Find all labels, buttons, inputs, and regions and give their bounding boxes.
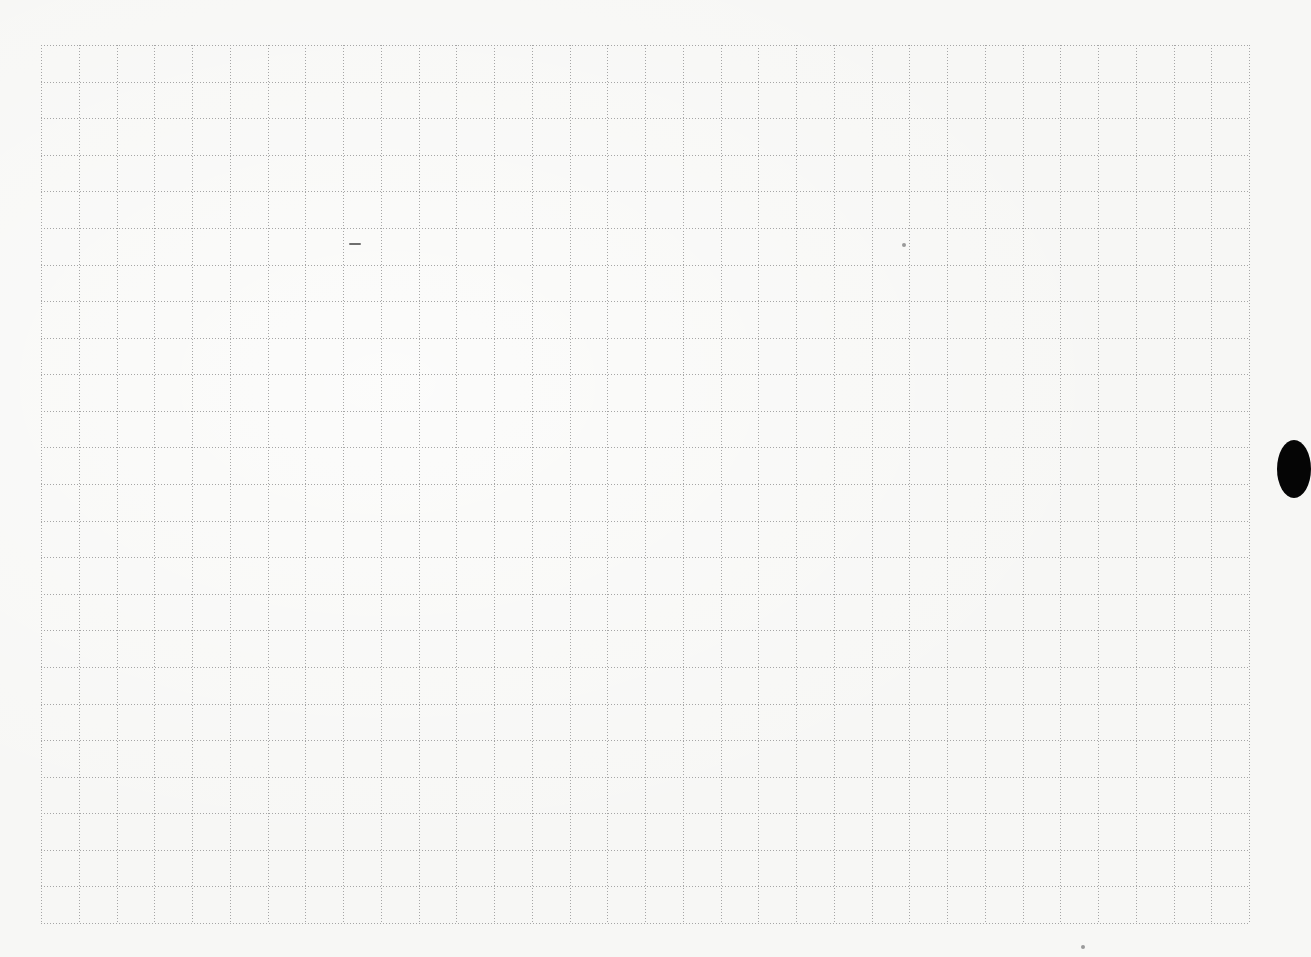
grid-lines bbox=[41, 45, 1249, 923]
speck bbox=[902, 243, 906, 247]
punch-hole bbox=[1277, 440, 1311, 498]
pencil-mark bbox=[349, 243, 361, 245]
dotted-grid bbox=[41, 45, 1249, 923]
speck bbox=[1081, 945, 1085, 949]
